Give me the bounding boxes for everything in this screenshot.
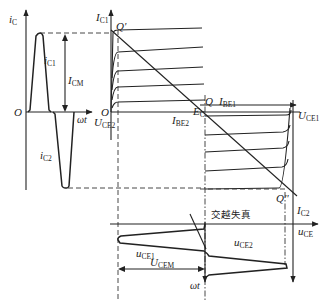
ic-axis-label: iC — [9, 14, 17, 27]
crossover-distortion-label: 交越失真 — [211, 210, 251, 220]
uce2-wave-label: uCE2 — [234, 237, 253, 250]
curve-2 — [112, 47, 203, 78]
ec-label: EC — [193, 106, 205, 119]
lower-output-characteristics — [200, 100, 296, 282]
q-double-prime-label: Q'' — [276, 193, 289, 204]
uce2-label: UCE2 — [94, 117, 115, 130]
lower-curve-1 — [205, 110, 291, 116]
ic1-label: iC1 — [44, 55, 56, 68]
ucem-label: UCEM — [150, 257, 174, 270]
ibe2-label: IBE2 — [172, 115, 189, 128]
left-current-waveform — [26, 10, 205, 190]
bottom-wt-label: ωt — [190, 281, 200, 291]
ic1-axis-label: IC1 — [96, 12, 108, 25]
push-pull-graphical-analysis-diagram: iC O ωt iC1 ICM iC2 IC1 Q' O UCE2 Q IBE1… — [0, 0, 329, 302]
lower-curve-2 — [205, 125, 290, 135]
icm-label: ICM — [68, 75, 83, 88]
q-label: Q — [205, 96, 213, 107]
curve-4 — [112, 84, 204, 100]
uce1-label: UCE1 — [298, 110, 319, 123]
ic2-label: iC2 — [40, 150, 52, 163]
ibe1-label: IBE1 — [219, 96, 236, 109]
lower-curve-3 — [205, 141, 289, 152]
q-prime-label: Q' — [116, 21, 126, 32]
lower-curve-4 — [205, 159, 288, 171]
ic1-pulse — [28, 33, 51, 112]
ic2-pulse — [53, 112, 74, 188]
uce-axis-label: uCE — [298, 226, 313, 239]
ic2-axis-label: IC2 — [297, 205, 309, 218]
crossover-pointer — [190, 214, 206, 249]
left-origin-label: O — [14, 107, 22, 118]
left-wt-label: ωt — [77, 115, 87, 125]
